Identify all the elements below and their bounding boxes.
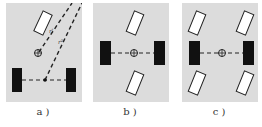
- fixed-wheel-right: [66, 68, 76, 92]
- caption-a: a ): [23, 106, 63, 117]
- panel-c-drawing: [182, 3, 258, 102]
- center-of-gravity-icon: [219, 50, 226, 57]
- fixed-wheel-left: [100, 41, 111, 65]
- panel-b-drawing: [93, 3, 169, 102]
- fixed-wheel-left: [189, 41, 200, 65]
- center-of-gravity-icon: [131, 50, 138, 57]
- fixed-wheel-left: [12, 68, 22, 92]
- turning-center-dot: [43, 78, 47, 82]
- panel-c: [182, 3, 258, 102]
- caption-c: c ): [199, 106, 239, 117]
- panel-a: r' r²: [6, 3, 82, 102]
- panel-a-drawing: r' r²: [6, 3, 82, 102]
- panel-b: [93, 3, 169, 102]
- steered-wheel-rear-left-icon: [188, 71, 206, 95]
- label-r2: r²: [58, 38, 64, 45]
- fixed-wheel-right: [243, 41, 254, 65]
- center-of-gravity-icon: [35, 50, 42, 57]
- steered-wheel-front-left-icon: [188, 11, 206, 35]
- label-r1: r': [49, 27, 54, 34]
- caption-b: b ): [110, 106, 150, 117]
- fixed-wheel-right: [154, 41, 165, 65]
- steered-wheel-rear-right-icon: [236, 71, 254, 95]
- steered-wheel-front-icon: [126, 11, 144, 35]
- steered-wheel-front-right-icon: [236, 11, 254, 35]
- steered-wheel-rear-icon: [126, 71, 144, 95]
